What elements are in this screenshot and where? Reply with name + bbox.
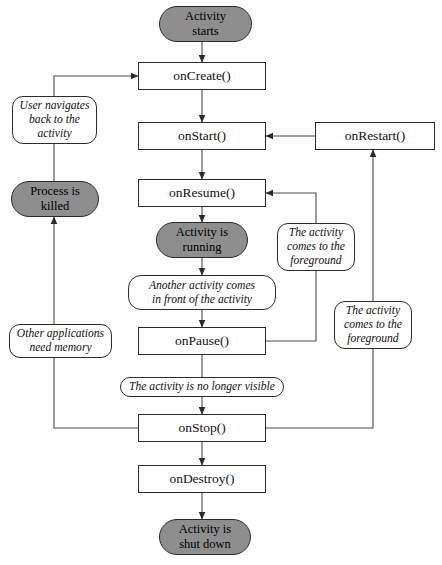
node-label-activity_running: Activity isrunning bbox=[176, 225, 228, 255]
node-label-no_longer_visible: The activity is no longer visible bbox=[129, 380, 275, 394]
node-on_pause: onPause() bbox=[138, 327, 266, 355]
node-label-foreground_low: The activitycomes to theforeground bbox=[344, 304, 402, 346]
node-on_create: onCreate() bbox=[138, 62, 266, 90]
node-label-on_start: onStart() bbox=[178, 128, 226, 144]
node-label-user_navigates: User navigatesback to theactivity bbox=[20, 99, 90, 141]
node-label-process_killed: Process iskilled bbox=[30, 184, 80, 214]
node-no_longer_visible: The activity is no longer visible bbox=[120, 377, 284, 397]
node-foreground_mid: The activitycomes to theforeground bbox=[277, 223, 355, 271]
node-label-activity_starts: Activitystarts bbox=[185, 9, 226, 39]
node-label-on_restart: onRestart() bbox=[345, 128, 406, 144]
node-activity_starts: Activitystarts bbox=[159, 6, 252, 42]
node-on_resume: onResume() bbox=[138, 179, 266, 207]
node-label-on_create: onCreate() bbox=[173, 68, 231, 84]
node-label-activity_shutdown: Activity isshut down bbox=[179, 522, 231, 552]
node-label-on_destroy: onDestroy() bbox=[169, 471, 234, 487]
node-activity_shutdown: Activity isshut down bbox=[159, 519, 251, 555]
node-foreground_low: The activitycomes to theforeground bbox=[334, 301, 412, 349]
node-on_destroy: onDestroy() bbox=[138, 465, 266, 493]
node-on_stop: onStop() bbox=[138, 414, 266, 442]
activity-lifecycle-diagram: ActivitystartsonCreate()User navigatesba… bbox=[0, 0, 442, 565]
node-label-on_stop: onStop() bbox=[178, 420, 225, 436]
node-user_navigates: User navigatesback to theactivity bbox=[12, 96, 97, 144]
node-label-foreground_mid: The activitycomes to theforeground bbox=[287, 226, 345, 268]
node-label-other_apps: Other applicationsneed memory bbox=[17, 327, 104, 355]
node-on_start: onStart() bbox=[138, 122, 266, 150]
node-process_killed: Process iskilled bbox=[11, 181, 99, 217]
edge-stop-left-to-killed bbox=[54, 217, 138, 428]
node-label-on_pause: onPause() bbox=[175, 333, 229, 349]
node-on_restart: onRestart() bbox=[315, 122, 435, 150]
node-label-on_resume: onResume() bbox=[169, 185, 235, 201]
node-another_activity: Another activity comesin front of the ac… bbox=[128, 275, 276, 310]
node-activity_running: Activity isrunning bbox=[156, 222, 248, 258]
node-other_apps: Other applicationsneed memory bbox=[9, 324, 112, 358]
node-label-another_activity: Another activity comesin front of the ac… bbox=[149, 279, 255, 307]
